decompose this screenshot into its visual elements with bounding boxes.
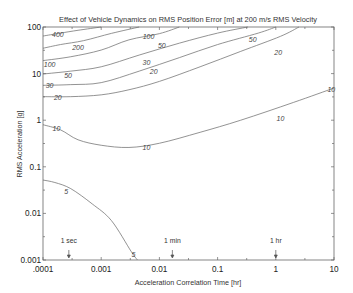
contour-label-5: 5 (64, 188, 68, 195)
contour-label-50: 50 (158, 42, 166, 49)
contour-line-5 (43, 180, 137, 260)
contour-label-20: 20 (273, 49, 282, 56)
y-tick-label: 0.01 (25, 209, 41, 218)
x-tick-label: 0.1 (212, 265, 224, 274)
contour-label-30: 30 (143, 59, 151, 66)
annotation-label: 1 hr (270, 237, 282, 244)
contour-line-10 (43, 88, 334, 147)
y-tick-label: 10 (32, 70, 42, 79)
x-tick-label: 0.01 (151, 265, 167, 274)
contour-label-20: 20 (149, 68, 158, 75)
chart-title: Effect of Vehicle Dynamics on RMS Positi… (59, 15, 317, 24)
arrowhead-icon (171, 255, 174, 258)
plot-frame (43, 27, 334, 260)
contour-label-100: 100 (44, 61, 56, 68)
y-tick-label: 0.001 (21, 256, 42, 265)
contour-label-400: 400 (52, 31, 64, 38)
x-axis-label: Acceleration Correlation Time [hr] (135, 278, 242, 287)
contour-label-30: 30 (46, 82, 54, 89)
x-tick-label: 10 (329, 265, 339, 274)
arrowhead-icon (274, 255, 277, 258)
x-tick-label: 0.001 (91, 265, 112, 274)
x-tick-label: 1 (274, 265, 279, 274)
contour-label-10: 10 (53, 125, 61, 132)
contour-line-20 (43, 27, 299, 97)
arrowhead-icon (67, 255, 70, 258)
annotation-label: 1 min (164, 237, 181, 244)
contour-label-10: 10 (277, 115, 285, 122)
contour-label-200: 200 (71, 44, 84, 51)
y-tick-label: 1 (36, 116, 41, 125)
contour-label-50: 50 (249, 36, 257, 43)
annotation-label: 1 sec (61, 237, 78, 244)
time-annotations: 1 sec1 min1 hr (61, 237, 283, 258)
contour-label-50: 50 (64, 72, 72, 79)
contour-label-5: 5 (132, 251, 136, 258)
contour-chart: Effect of Vehicle Dynamics on RMS Positi… (0, 0, 353, 293)
y-axis-label: RMS Acceleration [g] (15, 110, 24, 177)
y-tick-label: 100 (27, 23, 41, 32)
contour-line-30 (43, 27, 276, 85)
x-tick-label: .0001 (33, 265, 54, 274)
contour-label-100: 100 (143, 33, 155, 40)
contour-label-10: 10 (143, 144, 151, 151)
y-tick-label: 0.1 (30, 163, 42, 172)
contour-label-20: 20 (53, 94, 62, 101)
contour-labels: 40020010010050505030302020201010101055 (44, 31, 336, 258)
contour-lines (43, 27, 334, 260)
